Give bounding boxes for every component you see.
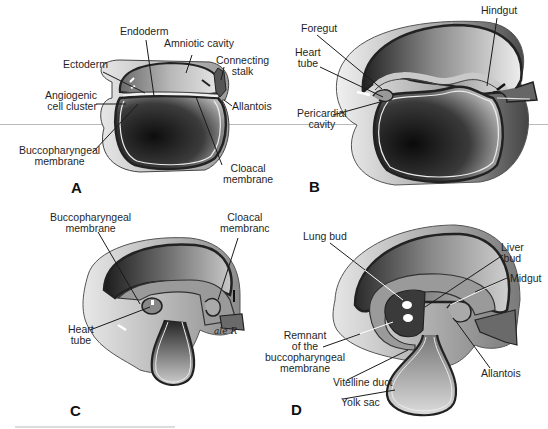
label-heart-tube-c: Heart tube [68,324,94,346]
label-foregut: Foregut [301,23,337,34]
label-heart-tube-line2: tube [295,58,321,69]
label-allantois-d: Allantois [481,368,521,379]
panel-letter-c: C [70,402,81,419]
label-endoderm: Endoderm [120,26,168,37]
panel-c: Buccopharyngeal membrane Cloacal membran… [0,210,275,429]
panel-letter-b: B [309,178,320,195]
label-angiogenic-line2: cell cluster [45,101,97,112]
label-pericardial-cavity: Pericardial cavity [297,108,347,130]
panel-letter-d: D [291,401,302,418]
panel-b: Hindgut Foregut Heart tube Pericardial c… [275,0,548,210]
label-allantois-a: Allantois [232,101,272,112]
label-cloacal-membrane-a: Cloacal membrane [223,163,273,185]
label-connecting-stalk-line2: stalk [216,66,269,77]
panel-a: Endoderm Amniotic cavity Ectoderm Connec… [0,0,275,210]
artist-signature: ale R [214,326,237,337]
label-midgut: Midgut [510,273,542,284]
label-heart-tube-line2: tube [68,335,94,346]
label-buccopharyngeal-membrane-a: Buccopharyngeal membrane [19,145,100,167]
label-connecting-stalk: Connecting stalk [216,55,269,77]
label-buccopharyngeal-membrane-c: Buccopharyngeal membrane [50,212,131,234]
label-remnant-buccopharyngeal-membrane: Remnant of the buccopharyngeal membrane [265,330,345,374]
label-buccopharyngeal-line2: membrane [50,223,131,234]
label-pericardial-line2: cavity [297,119,347,130]
label-heart-tube-b: Heart tube [295,47,321,69]
panel-letter-a: A [71,179,82,196]
label-lung-bud: Lung bud [303,231,347,242]
label-ectoderm: Ectoderm [63,59,108,70]
label-cloacal-membrane-c: Cloacal membranc [220,212,270,234]
label-cloacal-line2: membrane [223,174,273,185]
panel-c-diagram [0,210,275,429]
label-yolk-sac: Yolk sac [341,397,380,408]
panel-d: Lung bud Liver bud Midgut Remnant of the… [275,210,548,429]
label-liver-bud-line2: bud [501,253,524,264]
label-amniotic-cavity: Amniotic cavity [164,38,234,49]
label-liver-bud: Liver bud [501,242,524,264]
label-remnant-line4: membrane [265,363,345,374]
label-buccopharyngeal-line2: membrane [19,156,100,167]
label-vitelline-duct: Vitelline duct [333,377,392,388]
scan-artifact-bottom [15,426,175,428]
label-hindgut: Hindgut [481,5,517,16]
label-cloacal-line2: membranc [220,223,270,234]
label-angiogenic-cell-cluster: Angiogenic cell cluster [45,90,97,112]
